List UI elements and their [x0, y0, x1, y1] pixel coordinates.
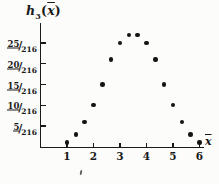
- data-point: [144, 41, 148, 45]
- x-tick-label: 2: [87, 150, 101, 162]
- x-tick-label: 3: [113, 150, 127, 162]
- x-tick-mark: [172, 143, 173, 148]
- dot-plot-figure: h3(x) 25/216 20/216 15/216 10/216 5/216 …: [0, 0, 219, 184]
- data-point: [91, 103, 95, 107]
- x-tick-label: 1: [60, 150, 74, 162]
- data-point: [135, 33, 139, 37]
- x-tick-mark: [93, 143, 94, 148]
- x-tick-mark: [119, 143, 120, 148]
- xbar-symbol: x: [205, 135, 212, 148]
- y-tick-label: 15/216: [2, 77, 37, 93]
- x-tick-label: 5: [166, 150, 180, 162]
- data-point: [100, 82, 104, 86]
- data-point: [188, 132, 192, 136]
- xbar-symbol: x: [47, 3, 55, 18]
- data-point: [109, 57, 113, 61]
- x-axis-line: [40, 147, 204, 148]
- data-point: [74, 132, 78, 136]
- x-tick-mark: [146, 143, 147, 148]
- close-paren: ): [55, 3, 61, 18]
- data-point: [162, 82, 166, 86]
- data-point: [171, 103, 175, 107]
- y-tick-mark: [41, 125, 46, 126]
- x-tick-label: 6: [193, 150, 207, 162]
- y-tick-label: 10/216: [2, 97, 37, 113]
- y-tick-mark: [41, 105, 46, 106]
- x-axis-label: x: [205, 135, 212, 148]
- y-tick-label: 5/216: [2, 118, 37, 134]
- function-symbol: h: [26, 3, 35, 18]
- y-tick-mark: [41, 42, 46, 43]
- data-point: [65, 140, 69, 144]
- data-point: [82, 120, 86, 124]
- y-tick-mark: [41, 63, 46, 64]
- data-point: [118, 41, 122, 45]
- data-point: [180, 120, 184, 124]
- data-point: [127, 33, 131, 37]
- y-tick-mark: [41, 84, 46, 85]
- x-tick-label: 4: [140, 150, 154, 162]
- data-point: [153, 57, 157, 61]
- y-tick-label: 25/216: [2, 35, 37, 51]
- y-axis-title: h3(x): [26, 3, 61, 21]
- y-tick-label: 20/216: [2, 56, 37, 72]
- stray-print-mark-icon: [80, 170, 83, 175]
- data-point: [197, 140, 201, 144]
